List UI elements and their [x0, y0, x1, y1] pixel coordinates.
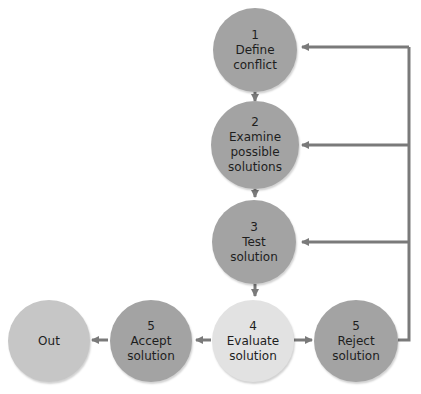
node-label: Define [235, 43, 274, 58]
node-label: conflict [233, 58, 277, 73]
node-number: 2 [251, 115, 259, 130]
node-test-solution: 3 Test solution [212, 200, 296, 284]
node-label: solutions [228, 160, 282, 175]
node-label: solution [332, 349, 380, 364]
node-examine-solutions: 2 Examine possible solutions [211, 101, 299, 189]
node-label: solution [229, 349, 277, 364]
feedback-line [398, 47, 409, 340]
node-label: possible [230, 145, 279, 160]
node-reject-solution: 5 Reject solution [314, 300, 398, 382]
node-label: solution [230, 250, 278, 265]
node-number: 5 [352, 319, 360, 334]
node-evaluate-solution: 4 Evaluate solution [212, 300, 294, 382]
node-out: Out [8, 300, 90, 382]
node-label: solution [127, 349, 175, 364]
node-label: Accept [131, 334, 172, 349]
node-label: Examine [229, 130, 281, 145]
node-number: 5 [147, 319, 155, 334]
node-accept-solution: 5 Accept solution [110, 300, 192, 382]
node-define-conflict: 1 Define conflict [213, 8, 297, 92]
node-label: Evaluate [227, 334, 279, 349]
node-label: Reject [337, 334, 374, 349]
node-number: 3 [250, 220, 258, 235]
node-label: Out [38, 334, 60, 349]
node-number: 1 [251, 28, 259, 43]
node-label: Test [242, 235, 266, 250]
node-number: 4 [249, 319, 257, 334]
